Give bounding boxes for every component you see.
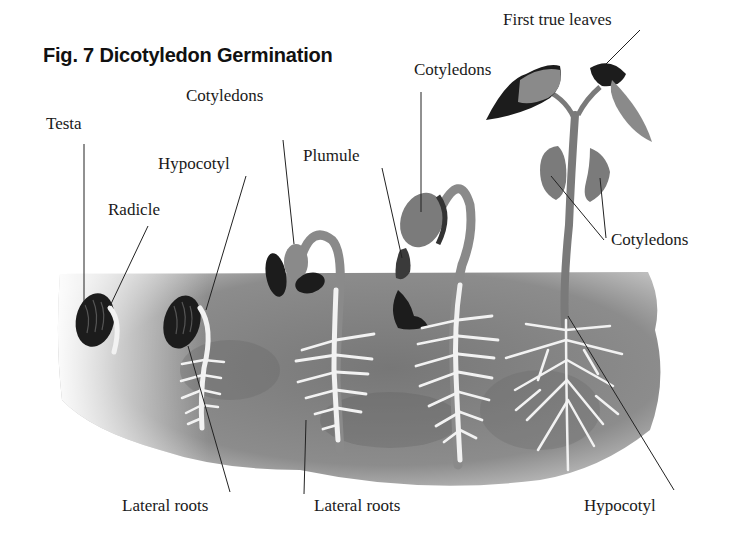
label-lateral-roots-2: Lateral roots (314, 496, 400, 516)
soil-block (58, 272, 661, 486)
label-cotyledons-stage-4: Cotyledons (414, 60, 491, 80)
label-radicle: Radicle (108, 200, 160, 220)
diagram-canvas: Fig. 7 Dicotyledon Germination Testa Rad… (0, 0, 736, 542)
label-testa: Testa (46, 114, 82, 134)
label-lateral-roots-1: Lateral roots (122, 496, 208, 516)
germination-illustration (0, 0, 736, 542)
figure-title: Fig. 7 Dicotyledon Germination (43, 44, 333, 67)
label-first-true-leaves: First true leaves (503, 10, 612, 30)
label-cotyledons-stage-5: Cotyledons (611, 230, 688, 250)
label-hypocotyl-bottom: Hypocotyl (584, 496, 656, 516)
label-plumule: Plumule (303, 146, 360, 166)
label-cotyledons-stage-3: Cotyledons (186, 86, 263, 106)
label-hypocotyl-top: Hypocotyl (158, 154, 230, 174)
